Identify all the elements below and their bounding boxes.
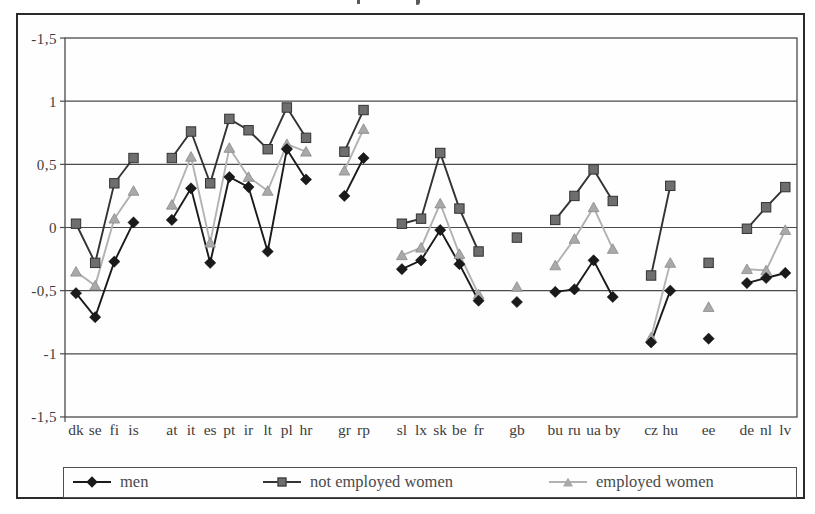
series-line-not-employed-women	[76, 158, 134, 263]
y-axis-label: -1,5	[17, 408, 57, 426]
marker-triangle-lx	[416, 243, 427, 253]
marker-diamond-hr	[300, 174, 311, 185]
marker-square-fr	[474, 247, 483, 256]
marker-triangle-pt	[224, 143, 235, 153]
marker-diamond-is	[128, 217, 139, 228]
marker-triangle-is	[128, 186, 139, 196]
legend-item-not-employed-women: not employed women	[263, 468, 453, 496]
marker-square-gr	[340, 147, 349, 156]
marker-square-bu	[551, 215, 560, 224]
legend-label: not employed women	[310, 472, 453, 492]
marker-square-pt	[225, 114, 234, 123]
y-axis-label: 0	[17, 219, 57, 237]
marker-square-lx	[416, 214, 425, 223]
marker-square-sk	[436, 148, 445, 157]
marker-triangle-by	[607, 244, 618, 254]
x-tick-label-hu: hu	[657, 421, 683, 439]
marker-square-cz	[646, 271, 655, 280]
legend: men not employed women employed women	[63, 467, 797, 498]
marker-triangle-sk	[435, 198, 446, 208]
marker-triangle-gb	[512, 282, 523, 292]
series-line-employed-women	[747, 230, 785, 270]
marker-square-be	[455, 204, 464, 213]
marker-triangle-ir	[243, 172, 254, 182]
x-tick-label-ee: ee	[696, 421, 722, 439]
marker-diamond-de	[741, 277, 752, 288]
series-line-not-employed-women	[555, 169, 613, 220]
marker-triangle-be	[454, 249, 465, 259]
x-tick-label-by: by	[600, 421, 626, 439]
x-tick-label-gb: gb	[504, 421, 530, 439]
marker-diamond-lx	[415, 255, 426, 266]
marker-square-ir	[244, 126, 253, 135]
series-line-men	[172, 149, 306, 263]
marker-square-sl	[397, 219, 406, 228]
legend-item-employed-women: employed women	[549, 468, 714, 496]
y-axis-label: -0,5	[17, 282, 57, 300]
marker-square-pl	[282, 103, 291, 112]
diamond-icon	[73, 475, 111, 489]
x-tick-label-lv: lv	[772, 421, 798, 439]
marker-diamond-lv	[780, 267, 791, 278]
marker-triangle-dk	[71, 267, 82, 277]
x-tick-label-hr: hr	[293, 421, 319, 439]
marker-triangle-it	[186, 152, 197, 162]
marker-diamond-es	[205, 257, 216, 268]
marker-square-se	[90, 258, 99, 267]
series-line-men	[555, 260, 613, 297]
marker-triangle-lv	[780, 225, 791, 235]
y-axis-label: -1	[17, 345, 57, 363]
y-axis-label: -1,5	[17, 30, 57, 48]
x-tick-label-is: is	[121, 421, 147, 439]
square-icon	[263, 475, 301, 489]
y-axis-label: 1	[17, 93, 57, 111]
marker-diamond-sl	[396, 264, 407, 275]
marker-triangle-fi	[109, 213, 120, 223]
marker-square-at	[167, 153, 176, 162]
marker-triangle-sl	[396, 250, 407, 260]
marker-triangle-hr	[301, 147, 312, 157]
x-tick-label-fr: fr	[466, 421, 492, 439]
marker-diamond-hu	[665, 285, 676, 296]
marker-diamond-at	[166, 214, 177, 225]
y-axis-label: 0,5	[17, 156, 57, 174]
marker-square-es	[205, 179, 214, 188]
marker-diamond-sk	[435, 224, 446, 235]
marker-diamond-bu	[550, 286, 561, 297]
marker-square-ua	[589, 165, 598, 174]
marker-square-ru	[570, 191, 579, 200]
series-line-employed-women	[555, 207, 613, 265]
marker-square-gb	[512, 233, 521, 242]
marker-square-rp	[359, 105, 368, 114]
marker-triangle-hu	[665, 258, 676, 268]
marker-diamond-rp	[358, 152, 369, 163]
marker-diamond-gb	[511, 296, 522, 307]
marker-diamond-ee	[703, 333, 714, 344]
marker-diamond-ua	[588, 255, 599, 266]
triangle-icon	[549, 475, 587, 489]
marker-diamond-pt	[224, 171, 235, 182]
marker-diamond-fi	[109, 256, 120, 267]
marker-triangle-gr	[339, 165, 350, 175]
marker-square-it	[186, 127, 195, 136]
marker-square-ee	[704, 258, 713, 267]
marker-diamond-ir	[243, 181, 254, 192]
marker-square-is	[129, 153, 138, 162]
marker-triangle-at	[166, 200, 177, 210]
marker-square-dk	[71, 219, 80, 228]
chart-page: -1,5 1 0,5 0 -0,5 -1 -1,5 dksefiisatites…	[0, 0, 815, 514]
marker-triangle-rp	[358, 124, 369, 134]
marker-square-de	[742, 224, 751, 233]
marker-triangle-ru	[569, 234, 580, 244]
legend-label: men	[120, 472, 148, 492]
series-line-men	[76, 222, 134, 317]
marker-diamond-it	[185, 183, 196, 194]
marker-diamond-by	[607, 291, 618, 302]
marker-diamond-gr	[339, 190, 350, 201]
x-tick-label-rp: rp	[351, 421, 377, 439]
legend-label: employed women	[596, 472, 714, 492]
marker-diamond-ru	[569, 284, 580, 295]
marker-square-by	[608, 196, 617, 205]
marker-square-lt	[263, 144, 272, 153]
marker-square-fi	[110, 179, 119, 188]
